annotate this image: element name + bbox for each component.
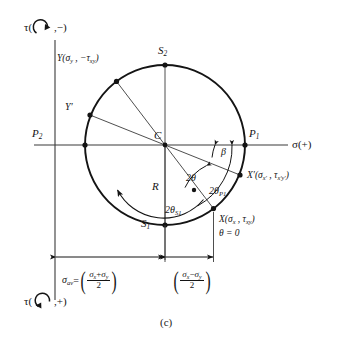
point-label-S2: S2	[158, 45, 167, 58]
arc-two-theta-s1	[118, 190, 204, 218]
point-dot-P2	[82, 142, 87, 147]
point-label-P2: P2	[32, 128, 42, 141]
point-dot-P1	[242, 142, 247, 147]
angle-label-radius: R	[152, 181, 159, 192]
P1-sub: 1	[256, 133, 260, 141]
tau-top-suffix: ,−)	[54, 21, 67, 33]
point-dot-S2	[162, 62, 167, 67]
Xprime-main: X′(σ	[247, 170, 263, 180]
half-diff-num-b-sub: y	[199, 274, 202, 280]
point-dot-Yprime	[87, 112, 92, 117]
Y-mid: , −τ	[73, 53, 90, 63]
sigma-av-num-b-sub: y	[106, 274, 109, 280]
point-dot-C	[163, 143, 168, 148]
point-dot-Xprime	[237, 172, 242, 177]
point-dot-X	[211, 206, 216, 211]
Xprime-tail: )	[286, 170, 289, 180]
sigma-av-equals: =	[73, 276, 79, 286]
Xprime-mid: , τ	[267, 170, 278, 180]
sigma-av-close-paren: )	[112, 268, 117, 293]
angle-label-beta: β	[221, 147, 226, 157]
point-label-X: X(σx , τxy)	[219, 215, 255, 225]
half-diff-open-paren: (	[174, 268, 179, 293]
theta-zero-note: θ = 0	[219, 229, 240, 239]
two-theta-p1-sub: P1	[219, 190, 226, 197]
tau-bottom-prefix: τ(	[24, 295, 32, 307]
two-theta-p1-main: 2θ	[209, 185, 219, 196]
point-label-Y: Y(σy , −τxy)	[57, 54, 99, 64]
S2-sub: 2	[164, 50, 168, 58]
dimension-label-half-diff: ( σx−σy 2 )	[172, 268, 212, 293]
P2-sub: 2	[39, 133, 43, 141]
dimension-label-sigma-av: σav = ( σx+σy 2 )	[62, 268, 119, 293]
mohr-circle-figure: τ(,−) τ(,+) σ(+) C P1 P2 S2 S1 Y(σy , −τ…	[0, 0, 337, 343]
angle-label-two-theta: 2θ	[186, 173, 196, 183]
tau-axis-label-bottom: τ(,+)	[24, 296, 67, 307]
sigma-axis-label: σ(+)	[292, 139, 311, 150]
S1-sub: 1	[147, 223, 151, 231]
X-main: X(σ	[219, 214, 233, 224]
point-label-P1: P1	[249, 128, 259, 141]
Y-tail: )	[95, 53, 98, 63]
point-label-S1: S1	[141, 218, 150, 231]
X-mid: , τ	[235, 214, 246, 224]
tau-bottom-suffix: ,+)	[54, 295, 67, 307]
point-dot-Y	[114, 79, 119, 84]
two-theta-s1-sub: S1	[175, 209, 182, 216]
point-label-C: C	[154, 130, 161, 141]
sigma-av-fraction: σx+σy 2	[87, 270, 110, 291]
half-diff-close-paren: )	[205, 268, 210, 293]
angle-label-two-theta-s1: 2θS1	[165, 205, 182, 216]
point-label-Xprime: X′(σx′ , τx′y′)	[247, 171, 289, 181]
sigma-av-denominator: 2	[87, 281, 110, 291]
arc-beta	[212, 145, 215, 158]
Y-main: Y(σ	[57, 53, 70, 63]
X-tail: )	[252, 214, 255, 224]
half-diff-fraction: σx−σy 2	[180, 270, 203, 291]
figure-caption: (c)	[160, 316, 172, 328]
half-diff-denominator: 2	[180, 281, 203, 291]
two-theta-s1-main: 2θ	[165, 204, 175, 215]
P1-letter: P	[249, 127, 256, 139]
tau-top-prefix: τ(	[24, 21, 32, 33]
arc-node-dot	[192, 188, 196, 192]
angle-label-two-theta-p1: 2θP1	[209, 186, 226, 197]
Xprime-sub2: x′y′	[277, 174, 285, 181]
sigma-av-open-paren: (	[80, 268, 85, 293]
P2-letter: P	[32, 127, 39, 139]
point-label-Yprime: Y′	[65, 102, 73, 112]
tau-axis-label-top: τ(,−)	[24, 22, 67, 33]
